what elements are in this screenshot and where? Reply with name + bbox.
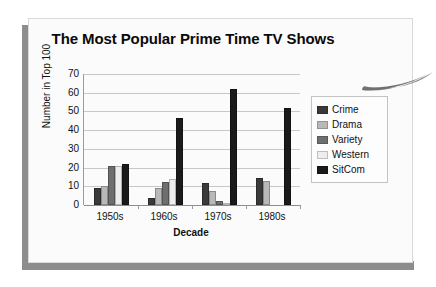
- legend-swatch-icon: [317, 121, 328, 129]
- legend-item-crime: Crime: [317, 102, 383, 117]
- bar-variety-1960s: [162, 182, 169, 205]
- legend-swatch-icon: [317, 106, 328, 114]
- legend-label: Variety: [332, 134, 362, 145]
- legend-item-variety: Variety: [317, 132, 383, 147]
- y-axis-tick-labels: 706050403020100: [59, 68, 81, 205]
- x-axis-tick-mark: [138, 205, 139, 209]
- bar-western-1970s: [223, 203, 230, 205]
- plot-area: [83, 74, 300, 205]
- bar-sitcom-1960s: [176, 118, 183, 205]
- y-tick-label: 0: [73, 200, 79, 210]
- legend-swatch-icon: [317, 151, 328, 159]
- chart-title: The Most Popular Prime Time TV Shows: [28, 30, 358, 47]
- bar-western-1950s: [115, 166, 122, 205]
- y-axis-title-text: Number in Top 100: [41, 0, 52, 198]
- bar-group-1980s: [246, 74, 300, 205]
- x-axis-tick-mark: [300, 205, 301, 209]
- legend-label: Crime: [332, 104, 359, 115]
- bar-crime-1980s: [256, 178, 263, 205]
- bar-sitcom-1970s: [230, 89, 237, 205]
- bar-crime-1970s: [202, 183, 209, 205]
- x-tick-label-1950s: 1950s: [96, 211, 123, 222]
- bar-variety-1950s: [108, 166, 115, 205]
- y-tick-label: 50: [68, 106, 79, 116]
- y-tick-label: 60: [68, 88, 79, 98]
- legend-item-western: Western: [317, 147, 383, 162]
- legend-swatch-icon: [317, 166, 328, 174]
- y-tick-label: 70: [68, 69, 79, 79]
- y-tick-label: 20: [68, 163, 79, 173]
- bar-drama-1950s: [101, 186, 108, 205]
- bar-western-1960s: [169, 179, 176, 205]
- bar-crime-1960s: [148, 198, 155, 205]
- y-tick-label: 40: [68, 125, 79, 135]
- legend-swatch-icon: [317, 136, 328, 144]
- x-axis-title: Decade: [83, 227, 299, 238]
- bar-group-1950s: [84, 74, 138, 205]
- bar-group-1970s: [192, 74, 246, 205]
- bar-drama-1960s: [155, 188, 162, 205]
- y-tick-label: 10: [68, 181, 79, 191]
- legend-label: Western: [332, 149, 369, 160]
- bar-crime-1950s: [94, 188, 101, 205]
- legend-item-drama: Drama: [317, 117, 383, 132]
- bar-variety-1970s: [216, 201, 223, 205]
- bar-sitcom-1980s: [284, 108, 291, 205]
- x-tick-label-1980s: 1980s: [258, 211, 285, 222]
- bar-drama-1980s: [263, 181, 270, 205]
- chart-legend: CrimeDramaVarietyWesternSitCom: [311, 96, 388, 183]
- legend-label: SitCom: [332, 164, 365, 175]
- x-axis-tick-mark: [246, 205, 247, 209]
- bar-drama-1970s: [209, 191, 216, 205]
- y-axis-title: Number in Top 100: [41, 0, 55, 86]
- bar-sitcom-1950s: [122, 164, 129, 205]
- legend-label: Drama: [332, 119, 362, 130]
- x-axis-tick-mark: [192, 205, 193, 209]
- x-axis-tick-labels: 1950s1960s1970s1980s: [83, 211, 299, 225]
- bar-group-1960s: [138, 74, 192, 205]
- legend-item-sitcom: SitCom: [317, 162, 383, 177]
- chart-plot-wrapper: Number in Top 100 706050403020100 1950s1…: [47, 68, 307, 243]
- x-tick-label-1960s: 1960s: [150, 211, 177, 222]
- y-tick-label: 30: [68, 144, 79, 154]
- x-tick-label-1970s: 1970s: [204, 211, 231, 222]
